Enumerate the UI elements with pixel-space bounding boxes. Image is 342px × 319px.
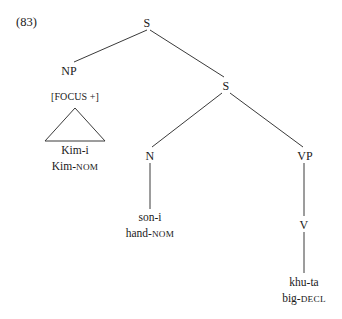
node-vp: VP xyxy=(297,150,313,162)
terminal-possessum-form: son-i xyxy=(139,212,162,224)
terminal-subject-gloss: Kim-NOM xyxy=(52,161,99,173)
terminal-subject-form: Kim-i xyxy=(61,145,88,157)
node-v: V xyxy=(300,219,309,231)
node-root-s: S xyxy=(144,17,151,29)
gloss-case-predicate: DECL xyxy=(301,294,326,304)
gloss-stem-subject: Kim- xyxy=(52,160,76,172)
example-number: (83) xyxy=(16,16,37,29)
gloss-case-subject: NOM xyxy=(76,162,98,172)
branch-embedded-s-to-n xyxy=(152,93,222,147)
terminal-predicate-form: khu-ta xyxy=(289,277,318,289)
syntax-tree-figure: (83) S NP S [FOCUS +] Kim-i Kim-NOM N VP… xyxy=(0,0,342,319)
gloss-stem-predicate: big- xyxy=(282,292,301,304)
branch-root-s-to-np xyxy=(74,30,147,62)
node-np: NP xyxy=(61,65,77,77)
node-embedded-s: S xyxy=(223,80,230,92)
terminal-predicate-gloss: big-DECL xyxy=(282,293,326,305)
terminal-possessum-gloss: hand-NOM xyxy=(126,228,175,240)
branch-root-s-to-embedded-s xyxy=(150,30,224,77)
branch-embedded-s-to-vp xyxy=(230,93,303,147)
node-n: N xyxy=(146,150,155,162)
focus-feature-label: [FOCUS +] xyxy=(51,92,99,102)
gloss-case-possessum: NOM xyxy=(152,229,174,239)
np-ellipsis-triangle xyxy=(45,108,105,141)
gloss-stem-possessum: hand- xyxy=(126,227,152,239)
